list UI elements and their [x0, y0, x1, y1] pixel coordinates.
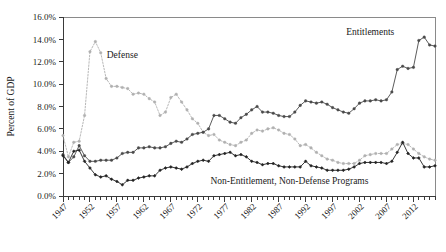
series-marker-0 [110, 85, 113, 88]
series-marker-0 [374, 152, 377, 155]
series-marker-1 [175, 140, 178, 143]
series-marker-1 [250, 109, 253, 112]
y-tick-label: 2.0% [37, 169, 56, 179]
series-marker-2 [288, 165, 291, 168]
series-marker-0 [326, 158, 329, 161]
series-marker-2 [331, 169, 334, 172]
series-marker-2 [202, 159, 205, 162]
series-marker-1 [116, 157, 119, 160]
series-marker-1 [213, 114, 216, 117]
series-marker-2 [99, 175, 102, 178]
series-marker-1 [277, 114, 280, 117]
series-marker-1 [434, 45, 437, 48]
series-marker-2 [256, 161, 259, 164]
y-tick-label: 0.0% [37, 191, 56, 201]
series-marker-2 [428, 165, 431, 168]
series-marker-0 [385, 152, 388, 155]
series-marker-0 [353, 162, 356, 165]
series-marker-2 [347, 168, 350, 171]
series-marker-2 [277, 164, 280, 167]
series-marker-0 [412, 148, 415, 151]
series-marker-0 [380, 152, 383, 155]
y-tick-label: 6.0% [37, 124, 56, 134]
series-marker-1 [99, 159, 102, 162]
series-marker-2 [369, 161, 372, 164]
series-marker-0 [320, 154, 323, 157]
x-tick-label: 1977 [211, 201, 231, 221]
x-tick-label: 1967 [157, 201, 177, 221]
series-marker-0 [288, 133, 291, 136]
x-tick-label: 1987 [265, 201, 285, 221]
series-annotation-2: Non-Entitlement, Non-Defense Programs [210, 176, 368, 186]
series-marker-2 [293, 165, 296, 168]
series-marker-2 [336, 169, 339, 172]
series-marker-0 [229, 143, 232, 146]
series-marker-1 [234, 122, 237, 125]
chart-container: 0.0%2.0%4.0%6.0%8.0%10.0%12.0%14.0%16.0%… [0, 0, 446, 252]
series-marker-0 [164, 111, 167, 114]
series-marker-1 [380, 100, 383, 103]
series-marker-0 [83, 114, 86, 117]
series-marker-1 [331, 106, 334, 109]
series-marker-1 [428, 44, 431, 47]
series-marker-1 [294, 111, 297, 114]
y-tick-label: 10.0% [33, 79, 57, 89]
series-marker-1 [374, 98, 377, 101]
series-marker-1 [170, 142, 173, 145]
series-marker-1 [202, 131, 205, 134]
series-marker-0 [218, 139, 221, 142]
series-marker-0 [310, 147, 313, 150]
series-marker-1 [283, 115, 286, 118]
x-tick-label: 1947 [50, 201, 70, 221]
series-marker-0 [153, 101, 156, 104]
series-marker-0 [94, 40, 97, 43]
series-marker-2 [283, 165, 286, 168]
series-marker-0 [294, 138, 297, 141]
series-marker-1 [83, 154, 86, 157]
x-tick-label: 1992 [292, 201, 312, 221]
series-marker-2 [180, 168, 183, 171]
series-marker-2 [148, 174, 151, 177]
series-marker-1 [78, 144, 81, 147]
series-marker-1 [153, 147, 156, 150]
series-marker-0 [234, 144, 237, 147]
series-marker-0 [391, 148, 394, 151]
series-marker-0 [315, 151, 318, 154]
series-marker-1 [229, 121, 232, 124]
series-marker-1 [186, 138, 189, 141]
series-marker-0 [99, 52, 102, 55]
series-marker-2 [266, 162, 269, 165]
series-marker-0 [148, 97, 151, 100]
series-marker-0 [342, 162, 345, 165]
series-marker-1 [110, 159, 113, 162]
series-marker-2 [142, 175, 145, 178]
x-tick-label: 1972 [184, 201, 204, 221]
series-marker-2 [72, 150, 75, 153]
series-marker-0 [358, 159, 361, 162]
series-marker-2 [326, 169, 329, 172]
series-marker-0 [396, 143, 399, 146]
series-marker-2 [196, 160, 199, 163]
series-marker-0 [105, 77, 108, 80]
series-marker-0 [299, 144, 302, 147]
series-marker-0 [62, 134, 65, 137]
series-marker-2 [385, 162, 388, 165]
series-marker-2 [315, 165, 318, 168]
series-marker-1 [143, 147, 146, 150]
series-marker-1 [337, 109, 340, 112]
series-marker-1 [353, 107, 356, 110]
x-tick-label: 1962 [130, 201, 150, 221]
series-marker-1 [191, 133, 194, 136]
series-marker-2 [164, 167, 167, 170]
series-marker-1 [267, 111, 270, 114]
series-marker-0 [347, 162, 350, 165]
series-marker-0 [207, 134, 210, 137]
series-marker-2 [218, 153, 221, 156]
series-marker-1 [423, 36, 426, 39]
series-marker-1 [391, 91, 394, 94]
series-marker-0 [369, 153, 372, 156]
series-marker-2 [223, 152, 226, 155]
series-marker-1 [412, 66, 415, 69]
series-marker-2 [132, 179, 135, 182]
series-marker-1 [326, 103, 329, 106]
